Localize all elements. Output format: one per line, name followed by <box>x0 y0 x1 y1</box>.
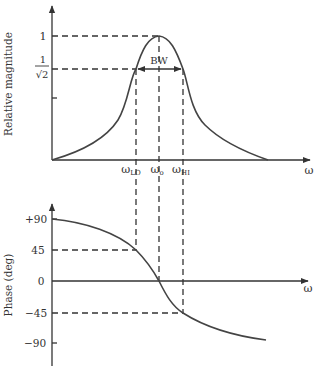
phase-y-label: Phase (deg) <box>2 254 14 317</box>
tick-label-plus-90: +90 <box>25 213 47 225</box>
bandwidth-label: BW <box>150 55 168 66</box>
magnitude-plot: BW 1 1 √2 Relative magnitude ωLO ωo ωHI … <box>2 6 314 313</box>
tick-label-minus-45: −45 <box>25 307 47 319</box>
tick-label-0: 0 <box>38 275 45 287</box>
phase-x-label: ω <box>304 282 313 295</box>
tick-label-half-power-den: √2 <box>36 69 49 80</box>
w-lo-label: ωLO <box>121 163 141 177</box>
tick-label-minus-90: −90 <box>24 337 46 349</box>
tick-label-half-power-num: 1 <box>40 54 46 65</box>
w-hi-label: ωHI <box>172 163 190 177</box>
magnitude-x-label: ω <box>305 164 314 177</box>
tick-label-one: 1 <box>40 30 47 43</box>
magnitude-y-label: Relative magnitude <box>2 32 14 136</box>
bandpass-response-diagram: BW 1 1 √2 Relative magnitude ωLO ωo ωHI … <box>0 0 316 373</box>
w0-label: ωo <box>150 163 163 177</box>
tick-label-45: 45 <box>31 244 44 256</box>
phase-plot: +90 45 0 −45 −90 Phase (deg) ω <box>2 204 313 366</box>
